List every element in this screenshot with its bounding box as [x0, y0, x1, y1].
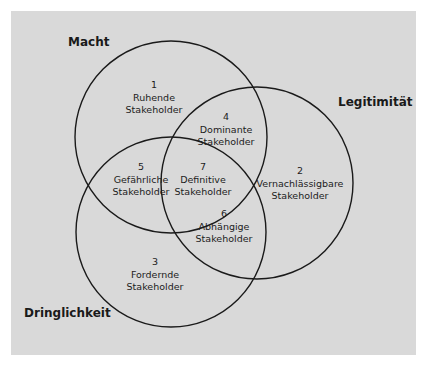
region-6-abhaengige: 6 Abhängige Stakeholder — [196, 208, 253, 246]
region-7-definitive: 7 Definitive Stakeholder — [175, 161, 232, 199]
region-number: 4 — [198, 111, 255, 124]
region-suffix: Stakeholder — [126, 104, 183, 117]
region-number: 1 — [126, 79, 183, 92]
region-3-fordernde: 3 Fordernde Stakeholder — [127, 256, 184, 294]
region-number: 7 — [175, 161, 232, 174]
region-number: 5 — [113, 161, 170, 174]
region-suffix: Stakeholder — [196, 233, 253, 246]
region-1-ruhende: 1 Ruhende Stakeholder — [126, 79, 183, 117]
region-number: 6 — [196, 208, 253, 221]
region-2-vernachlaessigbare: 2 Vernachlässigbare Stakeholder — [257, 165, 344, 203]
region-suffix: Stakeholder — [175, 186, 232, 199]
region-number: 3 — [127, 256, 184, 269]
region-suffix: Stakeholder — [127, 281, 184, 294]
region-4-dominante: 4 Dominante Stakeholder — [198, 111, 255, 149]
region-name: Gefährliche — [113, 174, 170, 187]
region-suffix: Stakeholder — [257, 190, 344, 203]
region-name: Abhängige — [196, 221, 253, 234]
region-suffix: Stakeholder — [198, 136, 255, 149]
set-label-macht: Macht — [68, 35, 109, 49]
region-name: Ruhende — [126, 92, 183, 105]
region-name: Vernachlässigbare — [257, 178, 344, 191]
set-label-dringlichkeit: Dringlichkeit — [24, 306, 111, 320]
region-5-gefaehrliche: 5 Gefährliche Stakeholder — [113, 161, 170, 199]
region-name: Fordernde — [127, 269, 184, 282]
region-number: 2 — [257, 165, 344, 178]
region-name: Definitive — [175, 174, 232, 187]
set-label-legitimitaet: Legitimität — [338, 95, 413, 109]
region-suffix: Stakeholder — [113, 186, 170, 199]
region-name: Dominante — [198, 124, 255, 137]
